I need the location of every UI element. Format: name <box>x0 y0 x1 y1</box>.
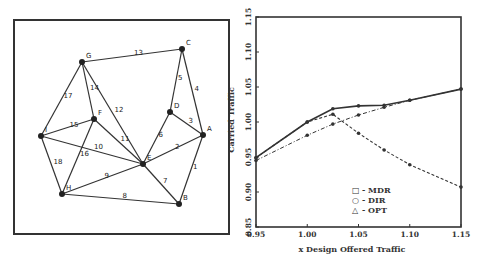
y-tick-label: 1.05 <box>244 78 253 96</box>
data-point <box>254 156 258 160</box>
data-point <box>331 113 335 117</box>
data-point <box>357 113 361 117</box>
y-tick-label: 0.95 <box>244 148 253 166</box>
legend-symbol: △ <box>352 205 359 215</box>
data-point <box>459 185 463 189</box>
series-line-opt <box>256 89 461 158</box>
y-tick-label: 1.15 <box>244 8 253 26</box>
data-point <box>305 120 309 124</box>
y-tick-label: 1.10 <box>244 43 253 61</box>
x-tick-label: 0.95 <box>247 230 265 239</box>
x-tick-label: 1.15 <box>452 230 470 239</box>
data-point <box>382 148 386 152</box>
data-point <box>408 163 412 167</box>
data-point <box>382 103 386 107</box>
legend-symbol: ○ <box>352 195 359 205</box>
line-chart: 0.850.900.951.001.051.101.15 0.951.001.0… <box>0 0 484 263</box>
x-tick-label: 1.05 <box>349 230 367 239</box>
x-axis-title: x Design Offered Traffic <box>299 244 406 254</box>
data-point <box>357 131 361 135</box>
y-axis-title: Carried Traffic <box>226 87 236 153</box>
legend-symbol: □ <box>352 185 360 195</box>
legend-label: - DIR <box>362 195 386 205</box>
data-point <box>459 87 463 91</box>
series-line-mdr <box>256 114 461 187</box>
legend-label: - MDR <box>362 185 391 195</box>
data-point <box>357 104 361 108</box>
chart-legend: □- MDR○- DIR△- OPT <box>352 185 391 215</box>
x-tick-label: 1.10 <box>401 230 419 239</box>
y-tick-label: 0.90 <box>244 183 253 201</box>
data-point <box>331 122 335 126</box>
figure: 123456789101112131415161718 ABCDEFGHI 0.… <box>0 0 484 263</box>
data-point <box>408 99 412 103</box>
data-point <box>331 107 335 111</box>
chart-series <box>254 87 463 189</box>
series-line-dir <box>256 89 461 160</box>
data-point <box>305 134 309 138</box>
legend-label: - OPT <box>362 205 387 215</box>
x-tick-label: 1.00 <box>298 230 316 239</box>
y-tick-label: 1.00 <box>244 113 253 131</box>
